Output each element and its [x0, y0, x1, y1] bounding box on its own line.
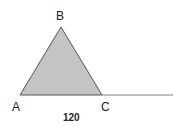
- vertex-label-a: A: [12, 100, 20, 114]
- triangle-diagram: B A C 120: [0, 0, 173, 126]
- base-length-label: 120: [63, 112, 80, 123]
- vertex-label-c: C: [101, 100, 110, 114]
- triangle-abc: [20, 27, 102, 95]
- vertex-label-b: B: [56, 9, 64, 23]
